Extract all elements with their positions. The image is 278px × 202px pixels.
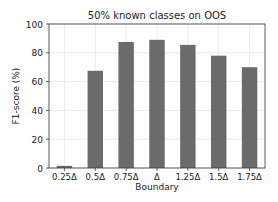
y-axis-ticks: 020406080100 xyxy=(26,20,49,174)
y-tick-label: 100 xyxy=(26,20,43,30)
x-tick-label: 1.25Δ xyxy=(175,172,200,182)
bar xyxy=(88,71,103,168)
bar xyxy=(180,45,195,168)
bar xyxy=(118,42,133,168)
x-tick-label: 0.25Δ xyxy=(52,172,77,182)
y-tick-label: 80 xyxy=(32,48,44,58)
x-axis-label: Boundary xyxy=(135,182,179,192)
bar-chart: 020406080100 0.25Δ0.5Δ0.75ΔΔ1.25Δ1.5Δ1.7… xyxy=(0,0,278,202)
y-axis-label: F1-score (%) xyxy=(11,68,21,125)
chart-title: 50% known classes on OOS xyxy=(88,10,226,21)
x-axis-ticks: 0.25Δ0.5Δ0.75ΔΔ1.25Δ1.5Δ1.75Δ xyxy=(52,168,262,182)
y-tick-label: 60 xyxy=(32,77,44,87)
x-tick-label: 0.75Δ xyxy=(114,172,139,182)
bar xyxy=(211,56,226,168)
y-tick-label: 20 xyxy=(32,135,44,145)
x-tick-label: 0.5Δ xyxy=(86,172,106,182)
y-tick-label: 40 xyxy=(32,106,44,116)
bar xyxy=(242,67,257,168)
bar xyxy=(149,40,164,168)
x-tick-label: Δ xyxy=(154,172,160,182)
y-tick-label: 0 xyxy=(37,164,43,174)
x-tick-label: 1.5Δ xyxy=(209,172,229,182)
bars xyxy=(57,40,258,168)
x-tick-label: 1.75Δ xyxy=(237,172,262,182)
